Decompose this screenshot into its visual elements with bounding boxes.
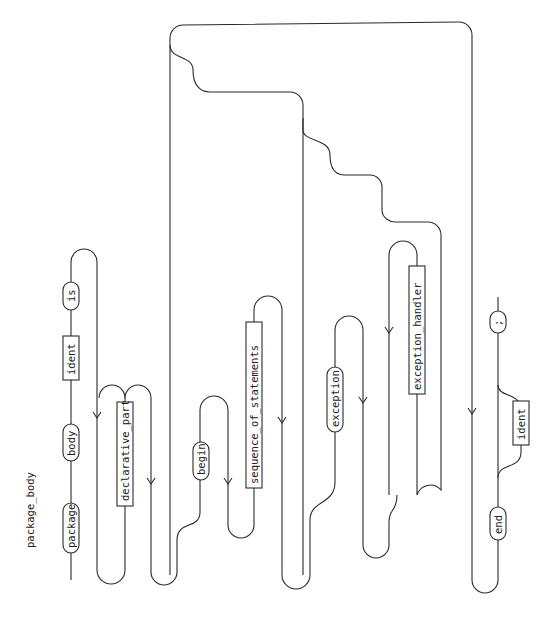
- nonterminal-ident: ident: [63, 336, 79, 380]
- svg-text:begin: begin: [195, 443, 207, 475]
- svg-text:ident: ident: [515, 408, 527, 440]
- terminal-body: body: [63, 424, 79, 461]
- terminal-is: is: [63, 282, 79, 310]
- step-curve: [310, 482, 335, 520]
- svg-text:declarative_part: declarative_part: [119, 400, 132, 501]
- exception-path: [335, 316, 389, 558]
- loop-seq-exception: [282, 520, 310, 589]
- svg-text:exception_handler: exception_handler: [411, 283, 424, 390]
- end-entry: [472, 297, 498, 593]
- bypass-curve: [177, 512, 200, 540]
- loop-col4-col5: [151, 540, 177, 585]
- outer-loop-left: [170, 22, 472, 580]
- svg-text:is: is: [65, 289, 77, 302]
- handler-join-curve: [389, 495, 397, 522]
- svg-text:end: end: [492, 515, 504, 534]
- svg-text:ident: ident: [65, 343, 77, 375]
- svg-text:package: package: [65, 504, 77, 548]
- terminal-semicolon: ;: [490, 311, 506, 333]
- diagram-title: package_body: [24, 472, 37, 548]
- railroad-diagram: package_body package body ident is decla…: [0, 0, 557, 617]
- nonterminal-sequence-of-statements: sequence_of_statements: [246, 322, 262, 488]
- nonterminal-ident-end: ident: [513, 401, 529, 445]
- terminal-package: package: [63, 503, 79, 553]
- nonterminal-exception-handler: exception_handler: [409, 266, 425, 394]
- terminal-begin: begin: [193, 442, 209, 480]
- svg-text:exception: exception: [329, 370, 341, 427]
- terminal-end: end: [490, 507, 506, 540]
- svg-text:sequence_of_statements: sequence_of_statements: [248, 345, 261, 484]
- nonterminal-declarative-part: declarative_part: [117, 400, 133, 506]
- terminal-exception: exception: [327, 367, 343, 432]
- svg-text:;: ;: [492, 320, 504, 326]
- svg-text:body: body: [65, 431, 77, 456]
- staircase-steps: [170, 45, 441, 390]
